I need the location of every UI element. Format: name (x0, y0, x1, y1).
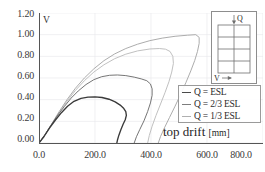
legend-swatch-icon (182, 104, 191, 105)
y-tick-label: 1.20 (0, 8, 34, 19)
legend-item[interactable]: Q = 1/3 ESL (179, 110, 260, 122)
x-axis-title-text: top drift (163, 124, 205, 139)
series-line (39, 97, 126, 143)
y-tick-label: 0.20 (0, 112, 34, 123)
legend: Q = ESL Q = 2/3 ESL Q = 1/3 ESL (178, 85, 261, 123)
y-tick-label: 0.00 (0, 133, 34, 144)
y-tick-label: 1.00 (0, 28, 34, 39)
series-line (39, 49, 173, 143)
x-tick-label: 800.0 (219, 149, 263, 160)
y-tick-label: 0.40 (0, 91, 34, 102)
y-axis-line (39, 13, 40, 143)
y-axis-title: V (43, 15, 50, 25)
inset-load-label: Q (237, 14, 243, 23)
x-tick-label: 0.0 (17, 149, 61, 160)
legend-label: Q = 1/3 ESL (194, 111, 240, 121)
series-line (39, 75, 152, 143)
x-axis-title: top drift [mm] (163, 124, 230, 140)
x-axis-unit: [mm] (209, 128, 230, 138)
y-tick-label: 0.60 (0, 70, 34, 81)
x-tick-label: 400.0 (129, 149, 173, 160)
chart-figure: 1.20 1.00 0.80 0.60 0.40 0.20 0.00 0.0 2… (0, 0, 265, 172)
legend-item[interactable]: Q = ESL (179, 86, 260, 98)
inset-drift-label: V (214, 74, 220, 83)
y-tick-label: 0.80 (0, 49, 34, 60)
frame-inset-diagram: Q V (211, 11, 257, 84)
x-tick-label: 200.0 (73, 149, 117, 160)
x-axis-line (39, 143, 263, 144)
legend-swatch-icon (182, 92, 191, 93)
legend-item[interactable]: Q = 2/3 ESL (179, 98, 260, 110)
legend-label: Q = ESL (194, 87, 226, 97)
legend-swatch-icon (182, 116, 191, 117)
frame-inset-svg: Q V (212, 12, 256, 83)
legend-label: Q = 2/3 ESL (194, 99, 240, 109)
